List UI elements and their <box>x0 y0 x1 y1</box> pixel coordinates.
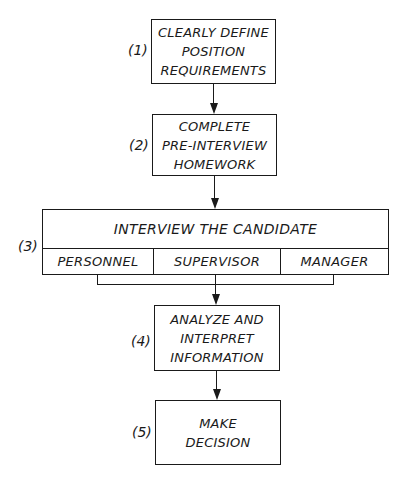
step-5-number: (5) <box>132 424 152 440</box>
step-3-title: INTERVIEW THE CANDIDATE <box>43 210 388 248</box>
step-2-line-1: COMPLETE <box>179 117 251 136</box>
arrow-down-icon <box>210 103 218 114</box>
step-2-line-3: HOMEWORK <box>174 155 256 174</box>
step-4-line-2: INTERPRET <box>180 329 254 348</box>
part-manager: MANAGER <box>280 249 388 274</box>
step-4-line-3: INFORMATION <box>170 348 263 367</box>
step-1-box: CLEARLY DEFINE POSITION REQUIREMENTS <box>151 19 276 84</box>
step-4-line-1: ANALYZE AND <box>170 310 264 329</box>
connector-2-3 <box>214 176 215 199</box>
step-2-line-2: PRE-INTERVIEW <box>162 136 267 155</box>
step-4-box: ANALYZE AND INTERPRET INFORMATION <box>154 305 280 371</box>
step-5-box: MAKE DECISION <box>155 400 281 465</box>
step-3-parts: PERSONNEL SUPERVISOR MANAGER <box>43 248 388 274</box>
step-1-line-3: REQUIREMENTS <box>161 61 267 80</box>
step-1-line-2: POSITION <box>182 42 246 61</box>
arrow-down-icon <box>213 389 221 400</box>
step-3-box: INTERVIEW THE CANDIDATE PERSONNEL SUPERV… <box>42 209 389 275</box>
step-3-number: (3) <box>18 238 38 254</box>
step-2-number: (2) <box>129 137 149 153</box>
step-1-number: (1) <box>128 42 148 58</box>
arrow-down-icon <box>212 294 220 305</box>
step-4-number: (4) <box>131 333 151 349</box>
arrow-down-icon <box>211 198 219 209</box>
step-5-line-1: MAKE <box>199 414 237 433</box>
part-supervisor: SUPERVISOR <box>153 249 280 274</box>
part-personnel: PERSONNEL <box>43 249 153 274</box>
connector-1-2 <box>213 84 214 104</box>
step-1-line-1: CLEARLY DEFINE <box>158 23 269 42</box>
step-2-box: COMPLETE PRE-INTERVIEW HOMEWORK <box>152 114 277 176</box>
step-5-line-2: DECISION <box>186 433 251 452</box>
connector-3-4 <box>215 274 216 295</box>
connector-4-5 <box>216 371 217 390</box>
